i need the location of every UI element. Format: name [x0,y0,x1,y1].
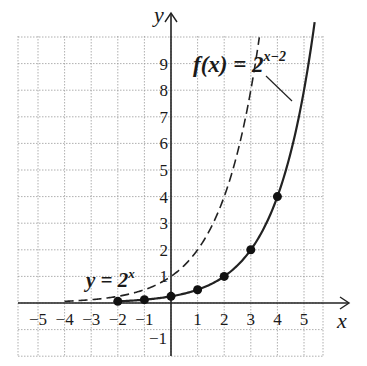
svg-text:5: 5 [300,310,309,329]
axes [18,13,349,356]
x-axis-label: x [336,308,347,333]
data-point [140,295,149,304]
data-point [246,245,255,254]
svg-text:−1: −1 [149,329,167,348]
svg-text:−4: −4 [56,310,75,329]
data-point [273,192,282,201]
svg-text:9: 9 [160,55,169,74]
data-point [193,285,202,294]
data-points [113,192,282,306]
svg-text:1: 1 [193,310,202,329]
svg-text:5: 5 [160,161,169,180]
plot-area: −5−4−3−2−112345−1123456789 f(x) = 2x−2 y… [0,0,367,366]
svg-text:−5: −5 [29,310,47,329]
svg-text:−2: −2 [109,310,127,329]
svg-text:6: 6 [160,134,169,153]
data-point [167,292,176,301]
svg-text:2: 2 [220,310,229,329]
svg-text:2: 2 [160,241,169,260]
svg-text:4: 4 [273,310,282,329]
svg-text:3: 3 [160,214,169,233]
svg-text:8: 8 [160,81,169,100]
data-point [113,297,122,306]
label-leader-line [266,76,292,101]
y-axis-label: y [152,2,164,27]
svg-text:−1: −1 [135,310,153,329]
chart: −5−4−3−2−112345−1123456789 f(x) = 2x−2 y… [0,0,367,366]
g-label: y = 2x [83,266,135,292]
f-label: f(x) = 2x−2 [193,49,286,77]
svg-text:3: 3 [247,310,256,329]
svg-text:4: 4 [160,188,169,207]
data-point [220,272,229,281]
svg-text:1: 1 [160,267,169,286]
svg-text:7: 7 [160,108,169,127]
svg-text:−3: −3 [82,310,100,329]
